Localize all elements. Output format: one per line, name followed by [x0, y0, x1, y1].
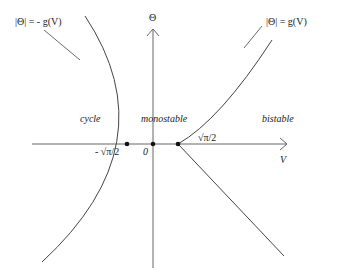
origin-point: [151, 142, 156, 147]
neg-root-point: [125, 142, 130, 147]
left-equation-label: |Θ| = - g(V): [15, 16, 62, 27]
region-monostable-label: monostable: [141, 113, 187, 124]
left-eq-leader: [44, 30, 80, 60]
pos-root-label: √π/2: [198, 132, 216, 143]
right-boundary-upper: [178, 40, 272, 144]
right-eq-leader: [244, 26, 262, 48]
neg-root-label: - √π/2: [95, 146, 119, 157]
theta-axis-label: Θ: [149, 12, 156, 23]
right-equation-label: |Θ| = g(V): [266, 16, 307, 27]
region-cycle-label: cycle: [80, 113, 101, 124]
origin-label: 0: [143, 146, 148, 157]
phase-diagram: [0, 0, 341, 276]
region-bistable-label: bistable: [262, 113, 294, 124]
pos-root-point: [176, 142, 181, 147]
left-boundary-curve: [42, 16, 119, 262]
v-axis-label: V: [280, 154, 286, 165]
right-boundary-lower: [178, 144, 284, 256]
